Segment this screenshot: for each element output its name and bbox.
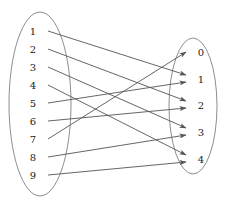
bipartite-mapping-diagram: 123456789 01234 — [0, 0, 230, 213]
diagram-canvas: 123456789 01234 — [0, 0, 230, 213]
domain-node-8: 8 — [30, 152, 36, 163]
edge-5-to-1 — [48, 82, 186, 103]
edges-group — [48, 31, 186, 175]
set-ellipses-group — [9, 12, 217, 196]
domain-node-1: 1 — [30, 26, 36, 37]
domain-node-3: 3 — [30, 62, 36, 73]
codomain-node-3: 3 — [198, 127, 204, 138]
domain-node-4: 4 — [30, 80, 36, 91]
edge-9-to-4 — [48, 162, 186, 175]
domain-set-ellipse — [9, 12, 71, 196]
codomain-labels-group: 01234 — [198, 47, 204, 165]
domain-node-7: 7 — [30, 134, 36, 145]
codomain-node-0: 0 — [198, 47, 204, 58]
domain-node-6: 6 — [30, 116, 36, 127]
domain-labels-group: 123456789 — [30, 26, 36, 181]
domain-node-5: 5 — [30, 98, 36, 109]
edge-2-to-2 — [48, 49, 186, 101]
codomain-node-2: 2 — [198, 100, 204, 111]
domain-node-9: 9 — [30, 170, 36, 181]
codomain-node-4: 4 — [198, 154, 204, 165]
codomain-node-1: 1 — [198, 74, 204, 85]
domain-node-2: 2 — [30, 44, 36, 55]
